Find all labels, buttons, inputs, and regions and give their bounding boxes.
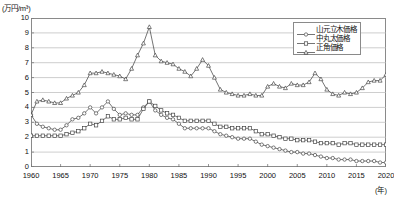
y-axis-tick-label: 7 <box>3 59 29 67</box>
x-axis-tick-label: 1965 <box>52 172 69 180</box>
x-axis-tick-label: 2000 <box>259 172 276 180</box>
y-axis-tick-label: 3 <box>3 118 29 126</box>
y-axis-unit-label: (万円/m³) <box>2 2 30 13</box>
legend-item: 正角価格 <box>296 43 357 52</box>
legend-item: 中丸太価格 <box>296 34 357 43</box>
x-axis-tick-label: 2020 <box>378 172 394 180</box>
x-axis-tick-label: 1980 <box>141 172 158 180</box>
y-axis-tick-label: 10 <box>3 14 29 22</box>
x-axis-tick-label: 2005 <box>289 172 306 180</box>
x-axis-tick-label: 1960 <box>23 172 40 180</box>
x-axis-tick-label: 2010 <box>318 172 335 180</box>
x-axis-tick-label: 1985 <box>171 172 188 180</box>
y-axis-tick-label: 9 <box>3 29 29 37</box>
y-axis-tick-label: 4 <box>3 103 29 111</box>
x-axis-tick-label: 2015 <box>348 172 365 180</box>
y-axis: 012345678910 <box>0 18 29 167</box>
y-axis-tick-label: 8 <box>3 44 29 52</box>
x-axis: 1960196519701975198019851990199520002005… <box>0 170 391 182</box>
legend-label: 中丸太価格 <box>316 34 350 43</box>
y-axis-tick-label: 6 <box>3 74 29 82</box>
series-circle-open <box>31 100 386 164</box>
y-axis-tick-label: 5 <box>3 89 29 97</box>
x-axis-tick-label: 1970 <box>82 172 99 180</box>
chart-legend: 山元立木価格中丸太価格正角価格 <box>293 22 361 55</box>
y-axis-tick-label: 2 <box>3 133 29 141</box>
series-square-open <box>31 100 386 147</box>
triangle-marker-icon <box>296 43 316 52</box>
square-marker-icon <box>296 34 316 43</box>
x-axis-unit-label: (年) <box>375 184 387 195</box>
legend-item: 山元立木価格 <box>296 25 357 34</box>
y-axis-tick-label: 1 <box>3 148 29 156</box>
x-axis-tick-label: 1995 <box>230 172 247 180</box>
x-axis-tick-label: 1975 <box>111 172 128 180</box>
x-axis-tick-label: 1990 <box>200 172 217 180</box>
circle-marker-icon <box>296 25 316 34</box>
legend-label: 正角価格 <box>316 43 343 52</box>
legend-label: 山元立木価格 <box>316 25 357 34</box>
